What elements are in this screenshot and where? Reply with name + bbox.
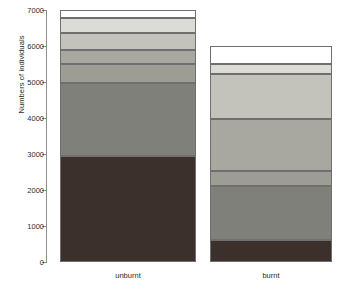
stacked-bar-chart: Numbers of individuals 01000200030004000… [0, 0, 345, 291]
bar-segment-burnt-segment-7[interactable] [210, 46, 332, 64]
x-axis-label-burnt: burnt [210, 271, 332, 280]
bar-segment-unburnt-segment-7[interactable] [60, 10, 196, 18]
bar-segment-unburnt-segment-6[interactable] [60, 18, 196, 33]
bar-segment-burnt-segment-3[interactable] [210, 171, 332, 186]
figure-caption-cropped [0, 284, 345, 291]
x-axis-label-unburnt: unburnt [60, 271, 196, 280]
stacked-bar-unburnt[interactable] [60, 10, 196, 262]
bar-segment-burnt-segment-2[interactable] [210, 186, 332, 239]
bar-segment-unburnt-segment-3[interactable] [60, 64, 196, 83]
bar-segment-unburnt-segment-4[interactable] [60, 50, 196, 64]
bar-segment-unburnt-segment-2[interactable] [60, 83, 196, 156]
bar-segment-unburnt-segment-1[interactable] [60, 156, 196, 262]
plot-area: unburntburnt [0, 0, 345, 291]
bar-segment-burnt-segment-6[interactable] [210, 64, 332, 74]
bar-segment-burnt-segment-5[interactable] [210, 74, 332, 119]
bar-segment-unburnt-segment-5[interactable] [60, 33, 196, 50]
bar-segment-burnt-segment-4[interactable] [210, 119, 332, 171]
stacked-bar-burnt[interactable] [210, 46, 332, 262]
bar-segment-burnt-segment-1[interactable] [210, 240, 332, 262]
